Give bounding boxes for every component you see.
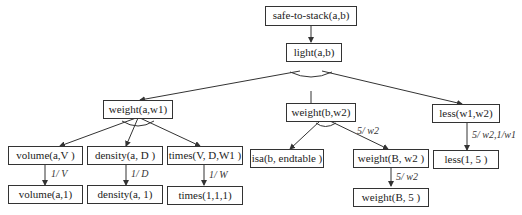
node-volume: volume(a,V ) <box>8 146 83 165</box>
node-less-1-5: less(1, 5 ) <box>433 150 499 169</box>
node-density: density(a, D ) <box>87 146 163 165</box>
node-weight-B-5: weight(B, 5 ) <box>353 188 429 207</box>
node-less: less(w1,w2) <box>432 104 500 123</box>
edge-label-times: 1/ W <box>209 169 228 180</box>
node-light: light(a,b) <box>286 43 342 62</box>
node-density-1: density(a, 1) <box>87 185 163 204</box>
edge-label-weight-B: 5/ w2 <box>396 171 418 182</box>
node-safe-to-stack: safe-to-stack(a,b) <box>265 6 357 26</box>
edge-label-volume: 1/ V <box>51 168 67 179</box>
node-isa: isa(b, endtable ) <box>250 149 324 168</box>
node-times: times(V, D,W1 ) <box>167 146 243 165</box>
edge-label-less: 5/ w2,1/w1 <box>472 129 516 140</box>
edge-label-weight-b: 5/ w2 <box>357 125 379 136</box>
node-weight-B: weight(B, w2 ) <box>353 149 429 168</box>
node-times-111: times(1,1,1) <box>167 186 243 205</box>
node-weight-b: weight(b,w2) <box>286 103 356 122</box>
edge-label-density: 1/ D <box>131 168 149 179</box>
node-weight-a: weight(a,w1) <box>103 100 173 119</box>
node-volume-1: volume(a,1) <box>8 185 83 204</box>
